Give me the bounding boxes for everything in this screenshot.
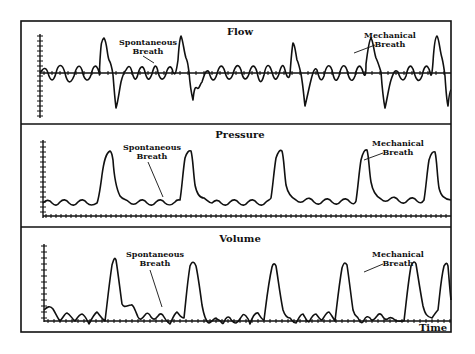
flow-mechanical-leader [354, 45, 375, 53]
volume-spontaneous-label-line2: Breath [140, 258, 171, 268]
volume-title: Volume [218, 233, 261, 244]
volume-mechanical-leader [364, 264, 383, 272]
pressure-spontaneous-label-line2: Breath [137, 151, 168, 161]
pressure-mechanical-label-line2: Breath [383, 147, 414, 157]
pressure-panel: Pressure Spontaneous Breath Mechanical B… [40, 129, 451, 218]
flow-title: Flow [227, 26, 254, 37]
volume-waveform [44, 258, 451, 324]
volume-panel: Volume Spontaneous Breath Mechanical Bre… [41, 233, 451, 333]
volume-mechanical-label-line2: Breath [383, 258, 414, 268]
flow-mechanical-label-line2: Breath [375, 39, 406, 49]
x-axis-label-time: Time [419, 322, 447, 333]
pressure-spontaneous-leader [148, 162, 163, 197]
pressure-waveform [43, 150, 451, 205]
ventilator-waveform-figure: Flow Spontaneous Breath Mechanical Breat… [0, 0, 475, 354]
pressure-title: Pressure [215, 129, 264, 140]
flow-spontaneous-leader [143, 56, 154, 63]
flow-panel: Flow Spontaneous Breath Mechanical Breat… [37, 26, 451, 118]
pressure-x-ticks [46, 214, 446, 218]
flow-spontaneous-label-line2: Breath [133, 46, 164, 56]
volume-spontaneous-leader [150, 270, 162, 307]
pressure-mechanical-leader [364, 153, 383, 160]
